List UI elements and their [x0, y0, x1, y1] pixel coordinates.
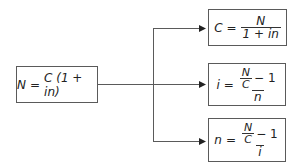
formula-n-inner-numerator: N: [242, 122, 254, 133]
formula-box-solve-for-c: C = N 1 + in: [208, 9, 287, 46]
formula-i-equals: =: [224, 78, 234, 92]
formula-i-inner-denominator: C: [240, 78, 252, 90]
formula-n-numerator: N C − 1: [240, 122, 280, 145]
source-formula-lhs: N: [17, 78, 26, 92]
formula-n-denominator: i: [256, 145, 263, 158]
source-formula-box: N = C (1 + in): [16, 66, 98, 103]
formula-n-fraction: N C − 1 i: [240, 122, 280, 158]
formula-i-denominator: n: [252, 90, 264, 103]
source-formula-rhs: C (1 + in): [44, 71, 97, 99]
formula-c-numerator: N: [254, 15, 267, 27]
formula-i-minus-one: − 1: [254, 72, 276, 84]
formula-i-inner-fraction: N C: [240, 67, 252, 90]
formula-c-lhs: C: [214, 21, 222, 35]
formula-i-fraction: N C − 1 n: [238, 67, 278, 103]
formula-n-lhs: n: [214, 133, 222, 147]
formula-n-inner-denominator: C: [242, 133, 254, 145]
formula-box-solve-for-n: n = N C − 1 i: [208, 118, 286, 162]
formula-box-solve-for-i: i = N C − 1 n: [208, 63, 286, 106]
formula-n-equals: =: [226, 133, 236, 147]
formula-i-inner-numerator: N: [240, 67, 252, 78]
source-formula-equals: =: [30, 78, 40, 92]
formula-i-numerator: N C − 1: [238, 67, 278, 90]
formula-c-fraction: N 1 + in: [241, 15, 281, 40]
formula-c-equals: =: [227, 21, 237, 35]
formula-n-minus-one: − 1: [256, 128, 278, 140]
formula-i-lhs: i: [216, 78, 219, 92]
formula-c-denominator: 1 + in: [241, 27, 281, 40]
formula-n-inner-fraction: N C: [242, 122, 254, 145]
